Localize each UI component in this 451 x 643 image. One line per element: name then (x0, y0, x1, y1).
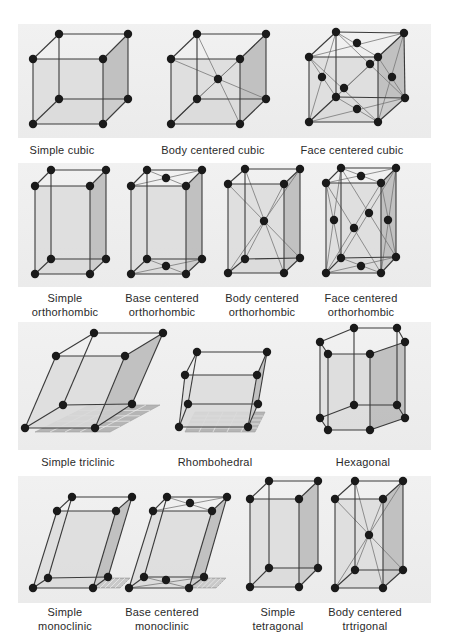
atom-icon (351, 566, 359, 574)
atom-icon (254, 400, 262, 408)
atom-icon (31, 182, 39, 190)
atom-icon (260, 217, 268, 225)
atom-icon (184, 400, 192, 408)
atom-icon (21, 424, 29, 432)
atom-icon (377, 179, 385, 187)
atom-icon (316, 414, 324, 422)
lattice-label-simple-cubic: Simple cubic (30, 143, 95, 157)
atom-icon (263, 348, 271, 356)
atom-icon (265, 564, 273, 572)
lattice-simple-triclinic (21, 329, 167, 432)
atom-icon (29, 584, 37, 592)
atom-icon (244, 423, 252, 431)
atom-icon (305, 53, 313, 61)
atom-icon (91, 424, 99, 432)
atom-icon (314, 564, 322, 572)
lattice-simple-cubic (29, 30, 132, 128)
atom-icon (128, 493, 136, 501)
atom-icon (89, 584, 97, 592)
lattice-label-body-centered-cubic: Body centered cubic (161, 143, 264, 157)
atom-icon (331, 584, 339, 592)
atom-icon (44, 574, 52, 582)
atom-icon (162, 174, 170, 182)
atom-icon (208, 507, 216, 515)
atom-icon (200, 573, 208, 581)
lattice-face-centered-cubic (305, 28, 409, 126)
lattice-base-centered-monoclinic (125, 493, 231, 592)
atom-icon (55, 95, 63, 103)
atom-icon (400, 29, 408, 37)
atom-icon (366, 350, 374, 358)
atom-icon (331, 495, 339, 503)
atom-icon (224, 180, 232, 188)
atom-icon (374, 118, 382, 126)
lattice-label-hexagonal: Hexagonal (336, 455, 390, 469)
atom-icon (379, 584, 387, 592)
atom-icon (127, 182, 135, 190)
lattice-label-line: Face centered (325, 291, 398, 305)
lattice-simple-orthorhombic (31, 166, 110, 278)
lattice-label-line: Simple (38, 605, 92, 619)
atom-icon (104, 573, 112, 581)
atom-icon (280, 269, 288, 277)
lattice-label-line: Simple (32, 291, 99, 305)
lattice-body-centered-tetragonal (331, 477, 407, 592)
atom-icon (330, 216, 338, 224)
atom-icon (162, 576, 170, 584)
atom-icon (175, 423, 183, 431)
atom-icon (128, 400, 136, 408)
atom-icon (181, 371, 189, 379)
atom-icon (350, 224, 358, 232)
atom-icon (280, 180, 288, 188)
atom-icon (351, 477, 359, 485)
lattice-simple-monoclinic (29, 493, 136, 592)
atom-icon (318, 73, 326, 81)
atom-icon (224, 269, 232, 277)
lattice-label-line: orthorhombic (225, 305, 299, 319)
lattice-body-centered-orthorhombic (224, 165, 304, 277)
lattice-label-line: Body centered cubic (161, 143, 264, 157)
atom-icon (125, 584, 133, 592)
atom-icon (393, 401, 401, 409)
lattice-label-face-centered-orthorhombic: Face centeredorthorhombic (325, 291, 398, 319)
lattice-simple-tetragonal (246, 477, 322, 591)
atom-icon (295, 583, 303, 591)
atom-icon (366, 426, 374, 434)
lattice-label-simple-tetragonal: Simpletetragonal (253, 605, 304, 633)
atom-icon (102, 255, 110, 263)
atom-icon (90, 329, 98, 337)
atom-icon (366, 60, 374, 68)
atom-icon (149, 507, 157, 515)
atom-icon (86, 270, 94, 278)
lattice-label-line: tetragonal (253, 619, 304, 633)
atom-icon (143, 166, 151, 174)
lattice-label-line: orthorhombic (32, 305, 99, 319)
atom-icon (99, 55, 107, 63)
lattice-label-line: orthorhombic (325, 305, 398, 319)
atom-icon (296, 254, 304, 262)
atom-icon (262, 95, 270, 103)
lattice-label-body-centered-orthorhombic: Body centeredorthorhombic (225, 291, 299, 319)
atom-icon (167, 120, 175, 128)
atom-icon (332, 93, 340, 101)
atom-icon (182, 182, 190, 190)
atom-icon (357, 172, 365, 180)
atom-icon (401, 414, 409, 422)
lattice-label-line: Face centered cubic (301, 143, 404, 157)
lattice-label-line: trtrigonal (328, 619, 402, 633)
lattice-label-line: Simple cubic (30, 143, 95, 157)
lattice-face-centered-orthorhombic (322, 164, 400, 277)
lattice-label-line: Hexagonal (336, 455, 390, 469)
atom-icon (162, 262, 170, 270)
atom-icon (140, 573, 148, 581)
atom-icon (393, 324, 401, 332)
atom-icon (401, 94, 409, 102)
atom-icon (296, 165, 304, 173)
atom-icon (322, 269, 330, 277)
atom-icon (365, 209, 373, 217)
lattice-label-base-centered-orthorhombic: Base centeredorthorhombic (125, 291, 199, 319)
atom-icon (337, 164, 345, 172)
lattice-label-simple-triclinic: Simple triclinic (41, 455, 115, 469)
atom-icon (143, 255, 151, 263)
lattice-label-line: Body centered (328, 605, 402, 619)
